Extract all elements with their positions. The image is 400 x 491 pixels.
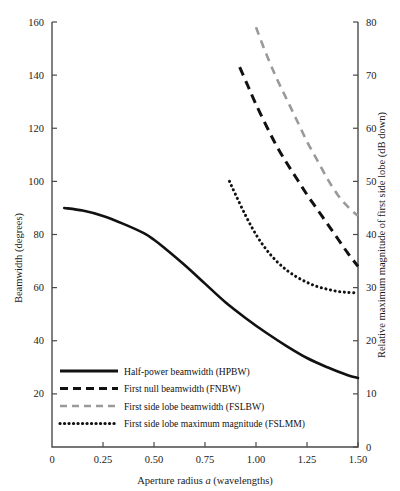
right-tick-label: 30 [366,282,377,293]
x-tick-label: 0.75 [196,454,214,465]
chart-svg: 20406080100120140160 01020304050607080 0… [0,0,400,491]
x-tick-label: 0 [49,454,54,465]
x-tick-label: 0.50 [145,454,163,465]
x-axis-title-symbol: a [205,475,210,486]
right-tick-label: 80 [366,17,377,28]
left-tick-label: 160 [28,17,44,28]
x-axis-tick-labels: 00.250.500.751.001.251.50 [49,454,367,465]
chart-legend: Half-power beamwidth (HPBW)First null be… [60,366,305,431]
left-tick-label: 140 [28,70,44,81]
right-tick-label: 10 [366,388,377,399]
legend-label-hpbw: Half-power beamwidth (HPBW) [124,366,250,378]
x-axis-title: Aperture radius a (wavelengths) [137,475,273,487]
x-axis-ticks [103,442,358,447]
left-tick-label: 80 [34,229,45,240]
x-tick-label: 1.50 [349,454,367,465]
right-tick-label: 60 [366,123,377,134]
left-tick-label: 120 [28,123,44,134]
data-curves [64,27,358,378]
x-tick-label: 0.25 [94,454,112,465]
legend-label-fslmm: First side lobe maximum magnitude (FSLMM… [124,418,305,430]
left-tick-label: 20 [34,388,45,399]
left-axis-tick-labels: 20406080100120140160 [28,17,44,400]
y2-axis-title: Relative maximum magnitude of first side… [376,111,388,358]
x-tick-label: 1.00 [247,454,265,465]
left-tick-label: 100 [28,176,44,187]
beamwidth-chart-figure: 20406080100120140160 01020304050607080 0… [0,0,400,491]
right-tick-label: 50 [366,176,377,187]
curve-fslbw [256,27,358,216]
curve-hpbw [64,208,358,378]
right-axis-tick-labels: 01020304050607080 [366,17,377,453]
legend-label-fnbw: First null beamwidth (FNBW) [124,383,240,395]
right-axis-ticks [353,22,358,447]
right-tick-label: 70 [366,70,377,81]
legend-label-fslbw: First side lobe beamwidth (FSLBW) [124,401,264,413]
right-tick-label: 0 [366,442,371,453]
x-tick-label: 1.25 [298,454,316,465]
left-tick-label: 60 [34,282,45,293]
right-tick-label: 20 [366,335,377,346]
left-axis-ticks [52,22,57,394]
left-tick-label: 40 [34,335,45,346]
right-tick-label: 40 [366,229,377,240]
y-axis-title: Beamwidth (degrees) [13,212,25,303]
